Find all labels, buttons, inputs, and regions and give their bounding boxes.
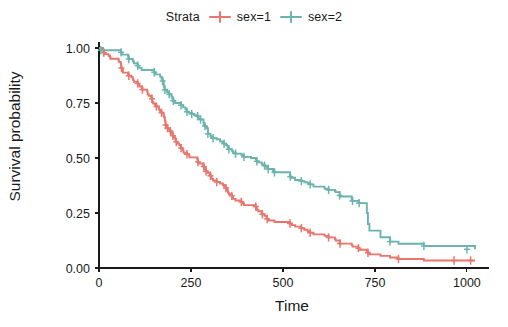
plot-panel: 0.000.250.500.751.00 02505007501000 xyxy=(0,0,508,327)
svg-text:0.50: 0.50 xyxy=(66,152,90,166)
svg-text:0.75: 0.75 xyxy=(66,97,90,111)
svg-text:250: 250 xyxy=(181,276,202,290)
km-curves xyxy=(99,48,475,261)
svg-text:0.25: 0.25 xyxy=(66,207,90,221)
x-axis-ticks: 02505007501000 xyxy=(96,268,481,290)
svg-text:1.00: 1.00 xyxy=(66,42,90,56)
svg-text:1000: 1000 xyxy=(453,276,481,290)
svg-text:0.00: 0.00 xyxy=(66,262,90,276)
svg-text:500: 500 xyxy=(273,276,294,290)
survival-plot: Strata sex=1 sex=2 Survival probability … xyxy=(0,0,508,327)
y-axis-ticks: 0.000.250.500.751.00 xyxy=(66,42,99,276)
censor-marks xyxy=(98,46,474,265)
svg-text:0: 0 xyxy=(96,276,103,290)
svg-text:750: 750 xyxy=(365,276,386,290)
